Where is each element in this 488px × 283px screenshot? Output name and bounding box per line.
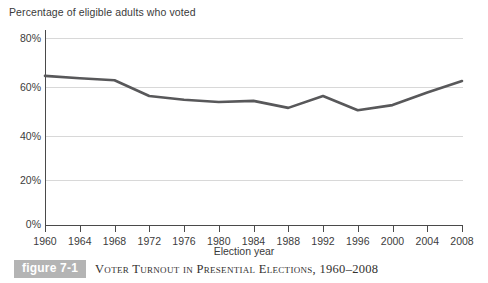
y-tick-label-0: 0% — [5, 218, 41, 230]
x-tick-1972 — [149, 226, 150, 232]
gridline-60 — [45, 87, 463, 88]
y-axis: 80% 60% 40% 20% 0% — [0, 0, 41, 226]
x-tick-1976 — [184, 226, 185, 232]
x-tick-1964 — [80, 226, 81, 232]
x-tick-2008 — [462, 226, 463, 232]
gridline-80 — [45, 38, 463, 39]
x-tick-1988 — [288, 226, 289, 232]
x-tick-1968 — [115, 226, 116, 232]
gridline-40 — [45, 136, 463, 137]
y-axis-line — [45, 30, 46, 226]
x-tick-1984 — [254, 226, 255, 232]
x-tick-1992 — [323, 226, 324, 232]
y-tick-label-20: 20% — [5, 174, 41, 186]
x-tick-2000 — [393, 226, 394, 232]
x-tick-1996 — [358, 226, 359, 232]
figure-container: Percentage of eligible adults who voted … — [0, 0, 488, 283]
gridline-20 — [45, 180, 463, 181]
plot-area — [45, 30, 463, 226]
figure-caption: figure 7-1 Voter Turnout in Presential E… — [0, 259, 488, 279]
figure-caption-text: Voter Turnout in Presential Elections, 1… — [95, 262, 378, 277]
y-tick-label-80: 80% — [5, 32, 41, 44]
x-tick-1980 — [219, 226, 220, 232]
y-tick-label-60: 60% — [5, 81, 41, 93]
x-tick-1960 — [45, 226, 46, 232]
x-axis-title: Election year — [0, 245, 488, 257]
y-tick-label-40: 40% — [5, 130, 41, 142]
figure-number-badge: figure 7-1 — [14, 260, 86, 278]
x-tick-2004 — [427, 226, 428, 232]
